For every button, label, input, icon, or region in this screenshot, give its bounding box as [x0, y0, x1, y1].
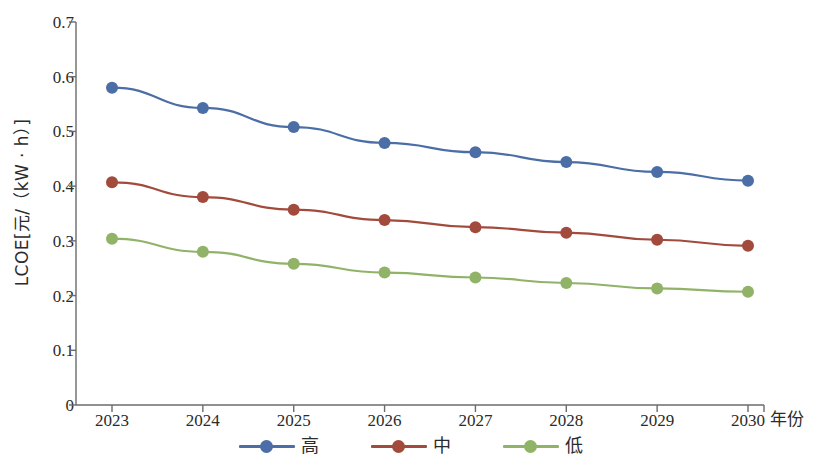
- x-axis-tick-label: 2025: [254, 412, 334, 429]
- data-point[interactable]: [651, 234, 663, 246]
- data-point[interactable]: [288, 258, 300, 270]
- series-line-低: [112, 239, 748, 292]
- data-point[interactable]: [288, 204, 300, 216]
- data-point[interactable]: [560, 227, 572, 239]
- data-point[interactable]: [560, 277, 572, 289]
- data-point[interactable]: [651, 166, 663, 178]
- x-axis-tick-label: 2023: [72, 412, 152, 429]
- line-chart: LCOE[元/（kW · h）] 00.10.20.30.40.50.60.7 …: [0, 0, 822, 467]
- legend-label: 低: [565, 437, 583, 455]
- data-point[interactable]: [197, 246, 209, 258]
- x-axis-title: 年份: [770, 405, 804, 430]
- data-point[interactable]: [560, 156, 572, 168]
- legend-item-中[interactable]: 中: [371, 437, 451, 455]
- data-point[interactable]: [651, 282, 663, 294]
- chart-legend: 高中低: [0, 437, 822, 455]
- x-axis-tick-label: 2029: [617, 412, 697, 429]
- data-point[interactable]: [742, 286, 754, 298]
- data-point[interactable]: [469, 146, 481, 158]
- data-point[interactable]: [106, 82, 118, 94]
- series-line-高: [112, 88, 748, 181]
- legend-item-低[interactable]: 低: [503, 437, 583, 455]
- data-point[interactable]: [379, 267, 391, 279]
- data-point[interactable]: [106, 233, 118, 245]
- legend-label: 高: [301, 437, 319, 455]
- x-axis-tick-label: 2028: [526, 412, 606, 429]
- legend-marker-icon: [392, 440, 405, 453]
- data-point[interactable]: [742, 240, 754, 252]
- data-point[interactable]: [197, 191, 209, 203]
- x-axis-tick-label: 2027: [435, 412, 515, 429]
- data-point[interactable]: [197, 102, 209, 114]
- legend-marker-icon: [260, 440, 273, 453]
- data-point[interactable]: [106, 176, 118, 188]
- axis-lines: [69, 22, 764, 412]
- data-point[interactable]: [379, 137, 391, 149]
- x-axis-tick-label: 2026: [345, 412, 425, 429]
- legend-item-高[interactable]: 高: [239, 437, 319, 455]
- data-point[interactable]: [288, 121, 300, 133]
- x-axis-tick-label: 2024: [163, 412, 243, 429]
- legend-swatch: [503, 439, 559, 453]
- data-point[interactable]: [469, 272, 481, 284]
- legend-swatch: [239, 439, 295, 453]
- legend-marker-icon: [524, 440, 537, 453]
- series-layer: [106, 82, 754, 298]
- legend-swatch: [371, 439, 427, 453]
- plot-area: [0, 0, 822, 467]
- data-point[interactable]: [469, 221, 481, 233]
- data-point[interactable]: [742, 175, 754, 187]
- legend-label: 中: [433, 437, 451, 455]
- data-point[interactable]: [379, 214, 391, 226]
